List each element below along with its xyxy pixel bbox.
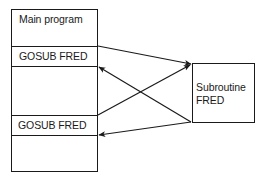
return-arrow-1 bbox=[99, 67, 191, 122]
arrows-layer bbox=[0, 0, 266, 183]
call-arrow-2 bbox=[98, 65, 190, 115]
call-arrow-1 bbox=[98, 46, 191, 64]
return-arrow-2 bbox=[99, 122, 191, 135]
gosub-diagram: Main program GOSUB FRED GOSUB FRED Subro… bbox=[0, 0, 266, 183]
